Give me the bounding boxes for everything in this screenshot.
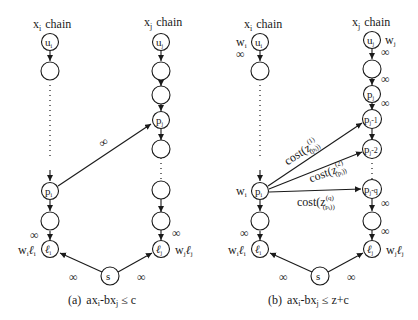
b-node-right-empty-1 [363,60,381,78]
a-node-pj: pj [153,112,170,129]
b-label-ui-inf: ∞ [236,47,245,61]
a-edge-s-li [60,253,102,272]
a-label-s-lj-inf: ∞ [137,270,146,284]
svg-text:cost(z(2)(pi)): cost(z(2)(pi)) [307,158,349,187]
a-node-left-empty-2 [41,212,59,230]
a-edge-pi-pj [58,124,151,186]
b-label-s-lj-inf: ∞ [347,270,356,284]
diagram-b: xichain xjchain ∞ wi ∞ ∞ ∞ ∞ ∞ wj cost(z… [228,15,404,308]
a-left-chain-title: xichain [33,17,71,33]
b-edge-s-li [270,253,312,272]
a-label-lj-inf: ∞ [172,226,181,240]
b-label-pjq-inf: ∞ [381,196,390,210]
b-left-chain-title: xichain [244,17,282,33]
b-node-lj: ℓj [364,241,381,258]
b-node-pj-minus-1: pj-1 [363,110,382,129]
b-node-pj-minus-2: pj-2 [363,140,382,159]
b-weight-uj: wj [385,33,396,48]
a-node-right-empty-2 [152,86,170,104]
b-weight-lj: wjℓj [386,243,404,258]
b-label-cost1: cost(z(1)(pi)) [281,134,322,169]
b-node-ui: ui [252,34,269,51]
b-node-uj: uj [364,32,381,49]
b-label-costq: cost(z(q)(pi)) [297,194,335,211]
a-node-s: s [101,267,119,285]
diagram-a: xichain xjchain ∞ ∞ ∞ ∞ ∞ ui [18,15,193,308]
svg-text:s: s [106,270,110,282]
b-node-pi: pi [252,183,269,200]
diagram-canvas: xichain xjchain ∞ ∞ ∞ ∞ ∞ ui [0,0,418,320]
b-label-cost2: cost(z(2)(pi)) [307,158,349,187]
a-label-s-li-inf: ∞ [69,270,78,284]
a-label-li-inf: ∞ [30,228,39,242]
b-caption: (b)axi-bxj ≤ z+c [268,293,349,308]
b-weight-li: wiℓi [228,243,246,258]
a-node-right-empty-3 [152,140,170,158]
svg-text:cost(z(1)(pi)): cost(z(1)(pi)) [281,134,322,169]
b-edge-pi-pjq [269,189,361,192]
a-node-uj: uj [153,34,170,51]
b-label-s-li-inf: ∞ [279,270,288,284]
b-label-li-inf: ∞ [240,226,249,240]
b-label-pj-inf: ∞ [381,96,390,110]
b-node-left-empty-1 [251,62,269,80]
b-node-pj: pj [364,86,381,103]
a-edge-s-lj [118,253,152,272]
a-weight-li: wiℓi [18,243,36,258]
b-label-lj-inf: ∞ [381,224,390,238]
b-label-uj-inf: ∞ [381,45,390,59]
a-node-li: ℓi [42,241,59,258]
a-node-lj: ℓj [153,241,170,258]
b-right-chain-title: xjchain [352,15,390,31]
b-node-right-empty-2 [363,212,381,230]
a-node-pi: pi [42,183,59,200]
b-node-pj-minus-q: pj-q [363,180,382,199]
svg-text:s: s [316,270,320,282]
a-right-chain-title: xjchain [144,15,182,31]
b-node-left-empty-2 [251,212,269,230]
a-node-right-empty-5 [152,212,170,230]
b-weight-ui: wi [236,35,247,50]
a-node-ui: ui [42,34,59,51]
b-node-li: ℓi [252,241,269,258]
a-node-left-empty-1 [41,62,59,80]
a-caption: (a)axi-bxj ≤ c [68,293,136,308]
b-weight-pi: wi [236,184,247,199]
b-edge-s-lj [328,253,363,272]
a-label-cross-inf: ∞ [96,134,111,150]
a-node-right-empty-1 [152,62,170,80]
a-node-right-empty-4 [152,181,170,199]
b-node-s: s [311,267,329,285]
a-weight-lj: wjℓj [175,243,193,258]
b-label-empty-inf: ∞ [381,72,390,86]
